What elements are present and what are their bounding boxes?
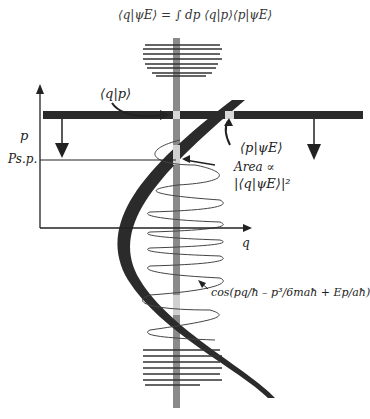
qp-label: ⟨q|p⟩	[100, 86, 131, 101]
area-expr-label: |⟨q|ψE⟩|²	[234, 176, 291, 191]
oscillation-top	[143, 45, 222, 76]
p-axis-label: p	[20, 128, 28, 143]
down-arrow-icon	[55, 143, 69, 158]
p-axis-arrow-icon	[36, 84, 44, 94]
down-arrow-icon	[307, 144, 321, 160]
area-label: Area ∝	[234, 160, 275, 174]
p-sp-label: Ps.p.	[8, 152, 37, 166]
vertical-strip	[173, 38, 180, 408]
q-axis-label: q	[242, 236, 250, 250]
momentum-bar	[43, 111, 363, 119]
q-axis-arrow-icon	[243, 224, 252, 232]
cos-expr-label: cos(pq/ħ – p³/6maħ + Ep/aħ)	[211, 286, 370, 299]
p-psi-label: ⟨p|ψE⟩	[240, 140, 283, 155]
